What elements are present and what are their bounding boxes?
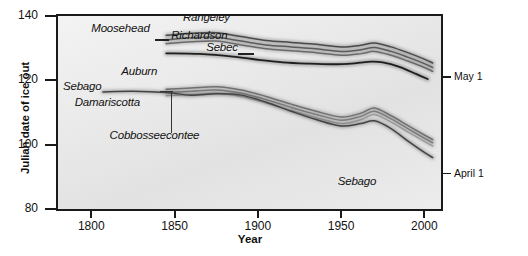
y-axis-tick-label: 120 xyxy=(0,72,38,86)
y-axis-tick-label: 140 xyxy=(0,8,38,22)
y-axis-tick-label: 100 xyxy=(0,137,38,151)
series-label-sebago: Sebago xyxy=(63,80,101,92)
x-axis-tick xyxy=(257,211,259,218)
right-axis-tick xyxy=(443,173,451,175)
x-axis-tick-label: 1850 xyxy=(145,219,205,233)
series-label-rangeley: Rangeley xyxy=(183,14,230,23)
x-axis-tick-label: 1950 xyxy=(311,219,371,233)
x-axis-tick xyxy=(423,211,425,218)
x-axis-tick-label: 1800 xyxy=(61,219,121,233)
series-label-sebec: Sebec xyxy=(206,41,238,53)
series-line-sebec[interactable] xyxy=(166,53,427,79)
series-label-moosehead: Moosehead xyxy=(91,22,149,34)
series-label-sebago-lower: Sebago xyxy=(338,175,376,187)
y-axis-tick xyxy=(45,208,56,210)
x-axis-tick xyxy=(90,211,92,218)
y-axis-title: Julian date of ice out xyxy=(19,33,31,203)
chart-figure: Julian date of ice out 14012010080 Range… xyxy=(0,0,528,256)
x-axis-tick xyxy=(174,211,176,218)
series-label-cobbosseecontee: Cobbosseecontee xyxy=(110,129,200,141)
x-axis-tick xyxy=(340,211,342,218)
y-axis-tick xyxy=(45,79,56,81)
label-connector-sebec xyxy=(238,53,254,55)
series-label-damariscotta: Damariscotta xyxy=(75,96,140,108)
right-axis-tick-label: May 1 xyxy=(454,70,483,82)
x-axis-tick-label: 2000 xyxy=(394,219,454,233)
series-label-auburn: Auburn xyxy=(121,65,157,77)
x-axis-tick-label: 1900 xyxy=(228,219,288,233)
x-axis-title: Year xyxy=(56,233,444,245)
series-line-halo-sebec xyxy=(166,53,427,79)
right-axis-tick-label: April 1 xyxy=(454,167,484,179)
series-lines xyxy=(58,16,441,209)
leader-tick-cobbosseecontee xyxy=(160,91,173,92)
right-axis-tick xyxy=(443,76,451,78)
series-label-richardson: Richardson xyxy=(171,29,227,41)
label-connector-moosehead xyxy=(155,39,169,41)
leader-line-cobbosseecontee xyxy=(171,92,172,133)
y-axis-tick xyxy=(45,15,56,17)
y-axis-tick xyxy=(45,144,56,146)
y-axis-tick-label: 80 xyxy=(0,201,38,215)
plot-area: RangeleyMooseheadRichardsonSebecAuburnSe… xyxy=(56,14,443,211)
